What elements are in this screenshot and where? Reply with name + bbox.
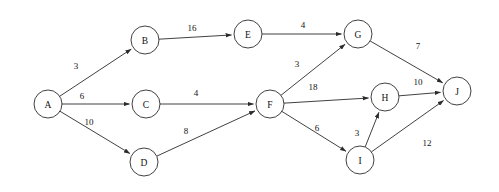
graph-node-d[interactable]: D	[130, 148, 158, 176]
edge-weight-g-j: 7	[416, 41, 421, 51]
graph-svg: 3610164843186710312 ABCDEFGHIJ	[0, 0, 499, 192]
edge-weight-f-i: 6	[315, 123, 320, 133]
edge-b-to-e	[159, 35, 232, 39]
graph-node-h[interactable]: H	[371, 83, 399, 111]
graph-node-b[interactable]: B	[131, 26, 159, 54]
graph-node-i[interactable]: I	[346, 146, 374, 174]
graph-node-e[interactable]: E	[234, 20, 262, 48]
edge-weight-d-f: 8	[184, 126, 189, 136]
graph-node-j[interactable]: J	[443, 77, 471, 105]
edge-i-to-h	[365, 112, 379, 147]
edge-weight-a-c: 6	[80, 91, 85, 101]
edge-weight-c-f: 4	[194, 88, 199, 98]
graph-node-c[interactable]: C	[132, 90, 160, 118]
edge-weight-i-h: 3	[355, 128, 360, 138]
edge-weight-a-d: 10	[85, 117, 95, 127]
node-label-f: F	[267, 100, 272, 110]
edge-d-to-f	[157, 111, 255, 156]
edge-weight-i-j: 12	[423, 138, 432, 148]
node-label-d: D	[141, 158, 148, 168]
edge-g-to-j	[370, 41, 443, 83]
graph-diagram-canvas: 3610164843186710312 ABCDEFGHIJ	[0, 0, 499, 192]
node-label-i: I	[358, 156, 361, 166]
node-label-j: J	[455, 87, 459, 97]
nodes-layer: ABCDEFGHIJ	[34, 20, 471, 176]
node-label-c: C	[143, 100, 149, 110]
graph-node-f[interactable]: F	[256, 90, 284, 118]
edge-weight-e-g: 4	[301, 20, 306, 30]
edge-weight-b-e: 16	[188, 23, 198, 33]
graph-node-g[interactable]: G	[344, 20, 372, 48]
edge-a-to-d	[60, 111, 130, 153]
graph-node-a[interactable]: A	[34, 90, 62, 118]
edge-weight-a-b: 3	[74, 61, 79, 71]
node-label-g: G	[355, 30, 362, 40]
node-label-b: B	[142, 36, 148, 46]
edge-a-to-b	[60, 49, 132, 96]
edge-h-to-j	[399, 92, 441, 95]
node-label-e: E	[245, 30, 251, 40]
edge-weight-f-h: 18	[309, 82, 319, 92]
node-label-h: H	[382, 93, 389, 103]
edge-f-to-h	[284, 98, 369, 103]
node-label-a: A	[45, 100, 52, 110]
edge-weight-f-g: 3	[295, 59, 300, 69]
edge-weight-h-j: 10	[414, 77, 424, 87]
